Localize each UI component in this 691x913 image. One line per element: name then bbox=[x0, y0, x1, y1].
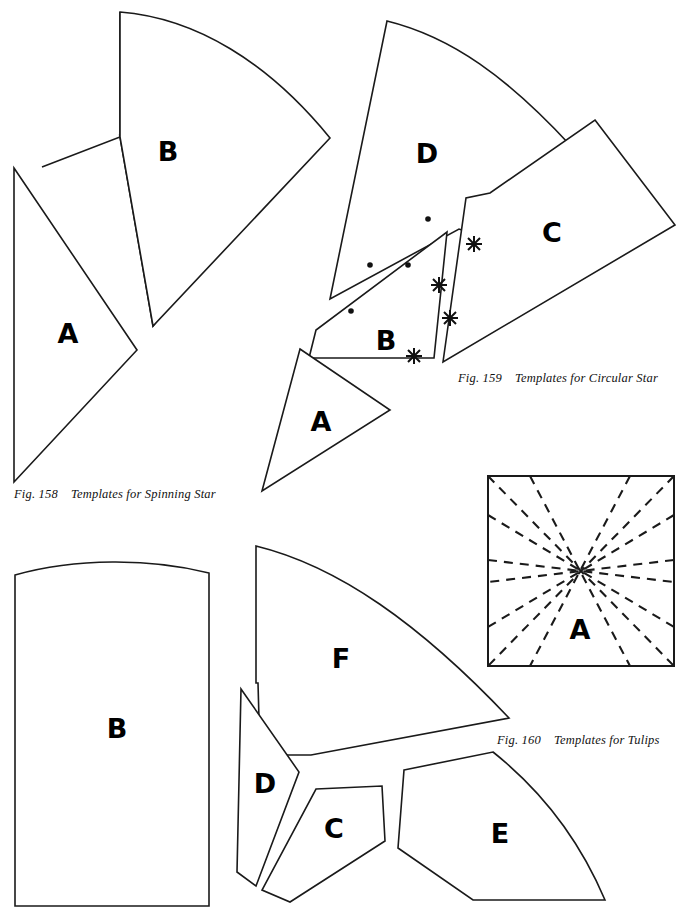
figure-160-title: Templates for Tulips bbox=[554, 733, 660, 747]
fig160-label-f: F bbox=[332, 643, 350, 674]
fig159-label-d: D bbox=[416, 138, 438, 169]
fig160-label-a: A bbox=[570, 614, 591, 645]
fig159-seam-cross bbox=[466, 236, 482, 252]
fig159-seam-dot bbox=[367, 262, 373, 268]
pattern-plate-page: B A bbox=[0, 0, 691, 913]
figure-160-group: A B F D C E bbox=[15, 476, 674, 906]
fig159-label-a: A bbox=[311, 406, 332, 437]
templates-plate-svg: B A bbox=[0, 0, 691, 913]
fig158-piece-b-shape bbox=[120, 12, 330, 326]
fig160-piece-f-shape bbox=[256, 546, 509, 755]
figure-158-caption: Fig. 158Templates for Spinning Star bbox=[14, 487, 216, 502]
fig160-label-d: D bbox=[254, 768, 276, 799]
fig158-label-a: A bbox=[58, 318, 79, 349]
figure-160-number: Fig. 160 bbox=[497, 733, 541, 747]
figure-158-title: Templates for Spinning Star bbox=[71, 487, 216, 501]
fig159-seam-cross bbox=[442, 310, 458, 326]
figure-159-group: D C B A bbox=[262, 21, 675, 491]
fig159-seam-dot bbox=[348, 308, 354, 314]
fig160-label-e: E bbox=[491, 818, 509, 849]
figure-160-caption: Fig. 160Templates for Tulips bbox=[497, 733, 660, 748]
figure-158-number: Fig. 158 bbox=[14, 487, 58, 501]
fig159-seam-cross bbox=[406, 348, 422, 364]
fig159-label-c: C bbox=[542, 217, 562, 248]
fig159-label-b: B bbox=[376, 325, 397, 356]
fig159-seam-dot bbox=[405, 262, 411, 268]
fig160-label-b: B bbox=[107, 713, 128, 744]
fig158-label-b: B bbox=[158, 136, 179, 167]
fig159-seam-dot bbox=[425, 216, 431, 222]
figure-159-caption: Fig. 159Templates for Circular Star bbox=[458, 371, 658, 386]
figure-159-number: Fig. 159 bbox=[458, 371, 502, 385]
fig159-seam-cross bbox=[431, 277, 447, 293]
fig160-label-c: C bbox=[324, 813, 344, 844]
figure-159-title: Templates for Circular Star bbox=[515, 371, 658, 385]
